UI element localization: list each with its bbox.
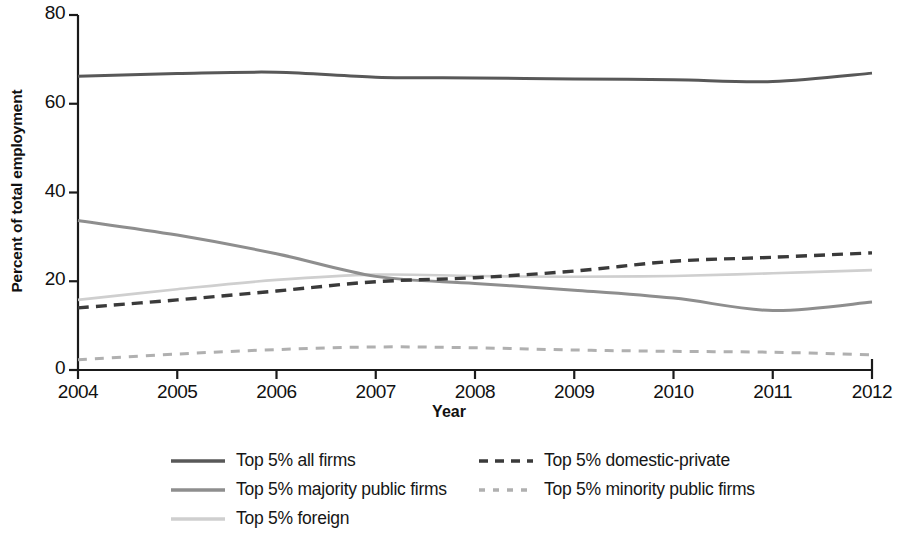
legend-column-left: Top 5% all firmsTop 5% majority public f…	[170, 446, 447, 533]
x-tick-label: 2008	[430, 381, 520, 403]
legend-label: Top 5% majority public firms	[236, 479, 447, 500]
x-tick-label: 2004	[33, 381, 123, 403]
legend-swatch-solid-line-icon	[170, 454, 226, 468]
y-tick-label: 60	[17, 91, 65, 113]
series-line	[78, 270, 872, 300]
data-series-group	[78, 72, 872, 360]
legend-item[interactable]: Top 5% minority public firms	[478, 475, 755, 504]
series-line	[78, 253, 872, 308]
legend-swatch-dashed-line-icon	[478, 483, 534, 497]
x-tick-label: 2005	[132, 381, 222, 403]
y-tick-label: 40	[17, 180, 65, 202]
x-tick-label: 2007	[331, 381, 421, 403]
legend-swatch-solid-line-icon	[170, 483, 226, 497]
y-tick-label: 80	[17, 2, 65, 24]
chart-plot-area: Percent of total employment Year 0204060…	[0, 0, 898, 430]
chart-figure: Percent of total employment Year 0204060…	[0, 0, 898, 539]
y-tick-label: 0	[17, 357, 65, 379]
y-tick-label: 20	[17, 268, 65, 290]
x-tick-label: 2012	[827, 381, 898, 403]
legend-item[interactable]: Top 5% majority public firms	[170, 475, 447, 504]
x-tick-label: 2006	[232, 381, 322, 403]
legend-swatch-dashed-line-icon	[478, 454, 534, 468]
x-tick-label: 2010	[629, 381, 719, 403]
legend-label: Top 5% minority public firms	[544, 479, 755, 500]
series-line	[78, 220, 872, 310]
legend-label: Top 5% domestic-private	[544, 450, 730, 471]
y-axis-ticks	[69, 15, 78, 370]
x-tick-label: 2011	[728, 381, 818, 403]
axis-lines	[78, 15, 872, 370]
x-axis-title: Year	[0, 403, 898, 421]
legend-label: Top 5% foreign	[236, 508, 349, 529]
series-line	[78, 72, 872, 82]
line-chart-svg	[0, 0, 898, 430]
chart-legend: Top 5% all firmsTop 5% majority public f…	[0, 440, 898, 539]
legend-item[interactable]: Top 5% domestic-private	[478, 446, 755, 475]
series-line	[78, 347, 872, 360]
legend-swatch-solid-line-icon	[170, 512, 226, 526]
legend-column-right: Top 5% domestic-privateTop 5% minority p…	[478, 446, 755, 504]
legend-item[interactable]: Top 5% foreign	[170, 504, 447, 533]
x-axis-ticks	[78, 370, 872, 379]
x-tick-label: 2009	[529, 381, 619, 403]
legend-label: Top 5% all firms	[236, 450, 356, 471]
legend-item[interactable]: Top 5% all firms	[170, 446, 447, 475]
